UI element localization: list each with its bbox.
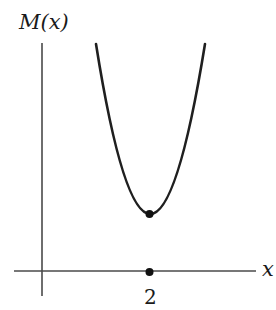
- x-axis-label: x: [262, 257, 274, 281]
- y-axis-label: M(x): [19, 10, 69, 34]
- graph-canvas: [0, 0, 276, 310]
- parabola-curve: [96, 44, 205, 214]
- vertex-point: [146, 210, 154, 218]
- x-axis-point: [146, 268, 154, 276]
- graph-figure: M(x) x 2: [0, 0, 276, 310]
- x-tick-label: 2: [144, 285, 157, 309]
